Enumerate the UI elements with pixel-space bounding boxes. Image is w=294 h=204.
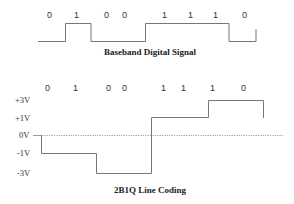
2b1q-bit-labels: 0 1 0 0 1 1 1 0 <box>45 83 246 93</box>
baseband-bit-2: 0 <box>104 10 109 20</box>
baseband-bit-1: 1 <box>74 10 79 20</box>
level-label-minus-3v: -3V <box>17 168 31 178</box>
2b1q-bit-2: 0 <box>106 83 111 93</box>
2b1q-bit-3: 0 <box>122 83 127 93</box>
2b1q-waveform <box>42 101 264 174</box>
voltage-axis-labels: +3V +1V 0V -1V -3V <box>15 95 31 178</box>
2b1q-bit-5: 1 <box>181 83 186 93</box>
level-label-plus-3v: +3V <box>15 95 31 105</box>
level-label-minus-1v: -1V <box>17 148 31 158</box>
baseband-bit-6: 1 <box>213 10 218 20</box>
baseband-bit-4: 1 <box>162 10 167 20</box>
2b1q-bit-1: 1 <box>73 83 78 93</box>
baseband-bit-3: 0 <box>122 10 127 20</box>
line-coding-diagram: 0 1 0 0 1 1 1 0 Baseband Digital Signal … <box>0 0 294 204</box>
level-label-0v: 0V <box>19 130 30 140</box>
2b1q-bit-6: 1 <box>210 83 215 93</box>
2b1q-bit-0: 0 <box>45 83 50 93</box>
2b1q-bit-4: 1 <box>161 83 166 93</box>
baseband-title: Baseband Digital Signal <box>104 47 197 57</box>
2b1q-bit-7: 0 <box>241 83 246 93</box>
baseband-bit-0: 0 <box>47 10 52 20</box>
baseband-bit-5: 1 <box>188 10 193 20</box>
baseband-bit-7: 0 <box>242 10 247 20</box>
2b1q-title: 2B1Q Line Coding <box>114 185 187 195</box>
baseband-waveform <box>38 24 256 42</box>
baseband-bit-labels: 0 1 0 0 1 1 1 0 <box>47 10 247 20</box>
level-label-plus-1v: +1V <box>15 113 31 123</box>
